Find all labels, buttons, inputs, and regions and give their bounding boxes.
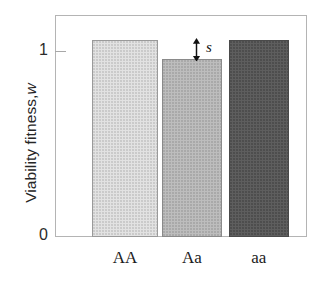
bar-aa [229,40,290,237]
x-tick-label-AA: AA [90,248,160,268]
y-axis-title-symbol-w: w [22,83,39,94]
y-axis-title-text: Viability fitness, [22,94,39,202]
x-tick-label-aa: aa [224,248,294,268]
bar-AA [92,40,158,237]
y-tick-label-1: 1 [28,41,48,59]
y-axis-title: Viability fitness,w [22,43,40,243]
bar-Aa [162,59,221,237]
selection-coefficient-annotation: s [190,38,230,66]
y-tick-label-0: 0 [28,226,48,244]
viability-fitness-bar-chart: Viability fitness,w 1 0 s AA Aa aa [0,0,326,284]
x-tick-label-Aa: Aa [157,248,227,268]
double-headed-arrow-icon [190,38,203,62]
selection-coefficient-label: s [206,39,212,56]
plot-area [56,16,306,237]
